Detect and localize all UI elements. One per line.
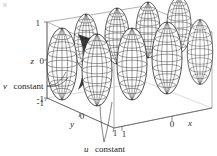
x-tick-label-0: 0 bbox=[170, 119, 175, 129]
surface-plot-svg: 1 0 -1 z -1 0 1 y 1 0 x v constant u con… bbox=[0, 0, 217, 156]
figure-3d-surface-plot: 1 0 -1 z -1 0 1 y 1 0 x v constant u con… bbox=[0, 0, 217, 156]
axis-label-z: z bbox=[29, 56, 34, 66]
z-tick-label-0: 0 bbox=[40, 56, 45, 66]
y-tick-label-0: 0 bbox=[80, 111, 85, 121]
x-tick-label-1: 1 bbox=[122, 129, 127, 139]
axis-label-y: y bbox=[69, 119, 74, 129]
v-constant-variable: v bbox=[3, 81, 7, 91]
u-constant-word: constant bbox=[95, 144, 125, 154]
corner-speck-mark bbox=[3, 3, 7, 7]
u-constant-variable: u bbox=[84, 144, 89, 154]
y-tick-label-1: 1 bbox=[113, 128, 118, 138]
axis-label-x: x bbox=[187, 118, 192, 128]
z-tick-label-1: 1 bbox=[36, 18, 41, 28]
y-tick-label-neg1: -1 bbox=[37, 98, 45, 108]
v-constant-word: constant bbox=[14, 81, 44, 91]
